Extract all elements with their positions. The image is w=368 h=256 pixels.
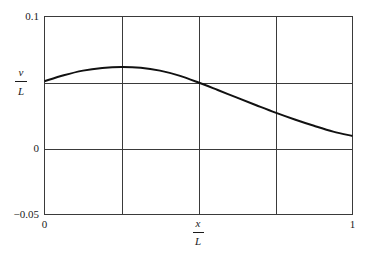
x-tick-label: 0 — [42, 218, 48, 230]
x-axis-label: x L — [193, 217, 204, 247]
x-axis-label-numerator: x — [195, 217, 201, 229]
grid-lines — [45, 17, 353, 215]
y-tick-labels: −0.0500.1 — [14, 10, 40, 220]
y-axis-label-denominator: L — [17, 85, 24, 97]
x-axis-label-denominator: L — [194, 235, 201, 247]
data-curve — [45, 67, 353, 136]
y-axis-label-numerator: v — [19, 66, 24, 78]
y-tick-label: 0.1 — [25, 10, 39, 22]
plot-frame — [45, 17, 353, 215]
y-axis-label: v L — [15, 66, 27, 97]
chart: −0.0500.1 01 v L x L — [0, 0, 368, 256]
y-tick-label: 0 — [34, 142, 40, 154]
x-tick-label: 1 — [350, 218, 356, 230]
y-tick-label: −0.05 — [14, 208, 40, 220]
